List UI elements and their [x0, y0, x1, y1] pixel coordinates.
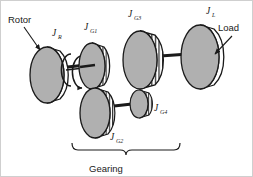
gearing-label: Gearing [89, 163, 123, 174]
diagram-canvas: Rotor Load Gearing J R J G1 J G2 J G3 J … [0, 0, 253, 177]
mechanical-drivetrain-diagram: Rotor Load Gearing J R J G1 J G2 J G3 J … [0, 0, 253, 177]
load-disk [181, 25, 224, 89]
rotor-label: Rotor [8, 14, 31, 25]
j-subscript-g4: G4 [160, 109, 167, 115]
j-subscript-g2: G2 [116, 138, 123, 144]
gear-g2 [80, 88, 115, 138]
j-subscript-g1: G1 [90, 28, 97, 34]
load-label: Load [218, 22, 239, 33]
j-subscript-load: L [211, 12, 216, 18]
j-subscript-g3: G3 [134, 15, 141, 21]
gear-g3 [123, 31, 163, 89]
gear-g1 [79, 43, 110, 89]
gear-g4 [130, 90, 152, 118]
j-subscript-rotor: R [57, 34, 62, 40]
